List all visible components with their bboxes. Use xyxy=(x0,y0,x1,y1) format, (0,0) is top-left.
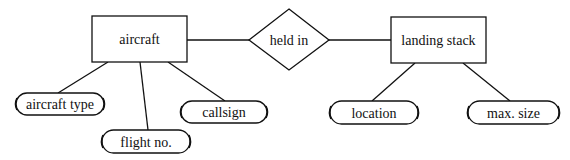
edge-aircraft-flight-no xyxy=(140,62,148,130)
er-diagram: aircraft held in landing stack aircraft … xyxy=(0,0,570,160)
attribute-label: flight no. xyxy=(120,135,171,150)
edge-aircraft-callsign xyxy=(168,62,225,101)
attribute-label: aircraft type xyxy=(26,97,94,112)
entity-label: landing stack xyxy=(401,33,475,48)
attribute-flight-no[interactable]: flight no. xyxy=(102,130,191,153)
attribute-label: max. size xyxy=(487,106,540,121)
edge-landing-stack-location xyxy=(372,63,415,101)
attribute-callsign[interactable]: callsign xyxy=(181,101,268,123)
attribute-location[interactable]: location xyxy=(330,101,419,124)
edge-landing-stack-max-size xyxy=(463,63,510,101)
entity-landing-stack[interactable]: landing stack xyxy=(391,17,486,63)
edge-aircraft-aircraft-type xyxy=(58,62,108,93)
relationship-held-in[interactable]: held in xyxy=(249,9,329,70)
entity-label: aircraft xyxy=(119,32,160,47)
attribute-label: callsign xyxy=(202,105,246,120)
relationship-label: held in xyxy=(270,33,309,48)
entity-aircraft[interactable]: aircraft xyxy=(92,16,187,62)
attribute-aircraft-type[interactable]: aircraft type xyxy=(16,93,105,115)
attribute-max-size[interactable]: max. size xyxy=(468,101,560,124)
attribute-label: location xyxy=(351,106,396,121)
